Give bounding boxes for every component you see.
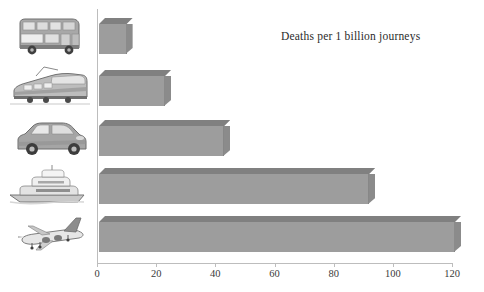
bar-front-face	[99, 222, 455, 252]
x-axis-tick-label: 120	[444, 268, 460, 279]
bar-plane	[97, 216, 459, 253]
x-axis-tick-label: 40	[210, 268, 221, 279]
x-axis-tick-label: 60	[269, 268, 280, 279]
bar-side-face	[368, 174, 375, 204]
train-image	[6, 64, 92, 110]
x-axis-tick-mark	[215, 263, 216, 267]
plane-image	[6, 212, 92, 258]
x-axis-tick-label: 0	[94, 268, 99, 279]
bar-side-face	[223, 126, 230, 156]
boat-image	[6, 164, 92, 210]
bar-side-face	[126, 24, 133, 54]
x-axis-tick-label: 100	[385, 268, 401, 279]
x-axis-tick-mark	[393, 263, 394, 267]
bar-train	[97, 70, 169, 107]
car-image	[6, 116, 92, 162]
x-axis-tick-mark	[334, 263, 335, 267]
chart-title: Deaths per 1 billion journeys	[281, 30, 420, 42]
x-axis-tick-label: 80	[328, 268, 339, 279]
bar-boat	[97, 168, 373, 205]
x-axis-tick-label: 20	[151, 268, 162, 279]
x-axis-tick-mark	[156, 263, 157, 267]
bus-image	[6, 12, 92, 58]
bar-front-face	[99, 24, 127, 54]
bar-side-face	[454, 222, 461, 252]
bar-front-face	[99, 76, 165, 106]
chart-container: Deaths per 1 billion journeys 0204060801…	[0, 0, 484, 292]
x-axis-tick-mark	[275, 263, 276, 267]
bar-bus	[97, 18, 131, 55]
x-axis-tick-mark	[452, 263, 453, 267]
bar-front-face	[99, 126, 224, 156]
bar-car	[97, 120, 228, 157]
bar-front-face	[99, 174, 369, 204]
bar-side-face	[164, 76, 171, 106]
x-axis-tick-mark	[97, 263, 98, 267]
